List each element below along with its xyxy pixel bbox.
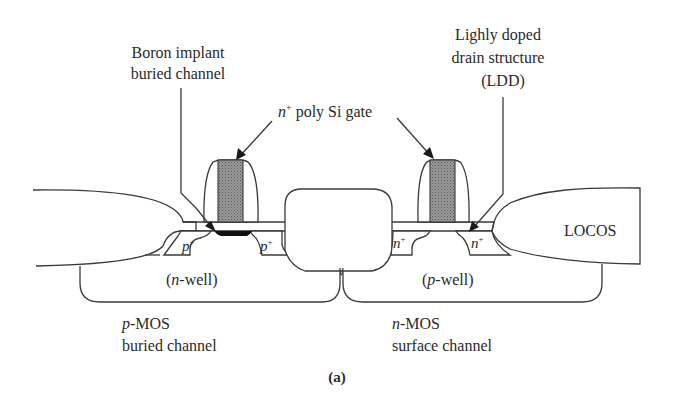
poly-gate-label: n+ poly Si gate xyxy=(278,102,372,121)
nmos-label-line1: n-MOS xyxy=(392,315,440,332)
boron-implant-buried-channel xyxy=(215,231,252,236)
cmos-cross-section-diagram: Boron implant buried channel n+ poly Si … xyxy=(0,0,675,404)
ldd-label-line2: drain structure xyxy=(452,49,545,66)
locos-label: LOCOS xyxy=(564,222,616,239)
n-well-label: (n-well) xyxy=(166,271,218,289)
locos-center xyxy=(285,189,392,271)
p-well-label: (p-well) xyxy=(422,271,474,289)
boron-implant-label-line1: Boron implant xyxy=(132,44,225,62)
pmos-label-line2: buried channel xyxy=(122,337,217,354)
panel-label: (a) xyxy=(328,369,346,386)
poly-gate-right xyxy=(430,160,455,222)
arrowhead-poly-left xyxy=(236,148,246,160)
ldd-label-line1: Lighly doped xyxy=(455,26,541,44)
pmos-label-line1: p-MOS xyxy=(121,315,170,333)
nmos-label-line2: surface channel xyxy=(392,337,492,354)
poly-gate-left xyxy=(218,160,243,222)
boron-implant-label-line2: buried channel xyxy=(131,65,226,82)
p-plus-left-label: p+ xyxy=(181,237,195,254)
ldd-label-line3: (LDD) xyxy=(481,72,525,90)
